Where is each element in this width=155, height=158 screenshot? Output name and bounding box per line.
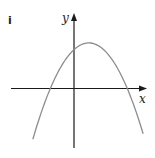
parabola-curve — [33, 43, 143, 139]
x-axis-arrow-icon — [139, 86, 147, 92]
parabola-figure: i x y — [0, 0, 155, 158]
x-axis-label: x — [139, 92, 146, 106]
y-axis-arrow-icon — [71, 13, 77, 21]
y-axis-label: y — [61, 11, 69, 25]
panel-label: i — [8, 14, 12, 27]
